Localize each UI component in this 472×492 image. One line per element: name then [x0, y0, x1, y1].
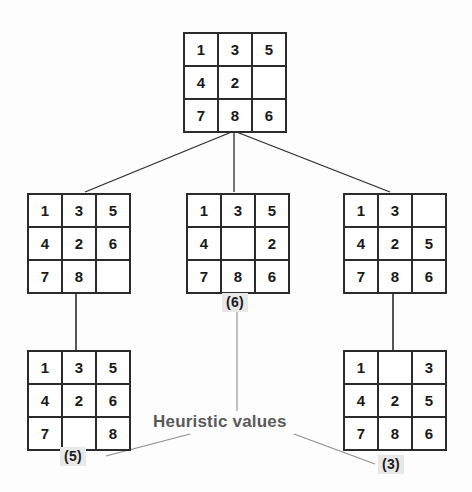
tile: 4 — [184, 66, 218, 99]
tile: 2 — [218, 66, 252, 99]
edge-root-to-right — [234, 131, 390, 192]
tile: 6 — [96, 227, 130, 260]
tile: 8 — [378, 417, 412, 450]
tile: 2 — [378, 384, 412, 417]
tile: 5 — [96, 351, 130, 384]
tile: 1 — [344, 351, 378, 384]
tile: 6 — [412, 260, 446, 293]
tile: 5 — [252, 33, 286, 66]
heuristic-values-caption: Heuristic values — [153, 412, 287, 432]
tile: 7 — [184, 99, 218, 132]
edge-root-to-left — [85, 131, 234, 192]
child-state-right: 1 3 4 2 5 7 8 6 — [343, 193, 447, 294]
tile: 6 — [255, 260, 289, 293]
child-state-middle: 1 3 5 4 2 7 8 6 — [186, 193, 290, 294]
child-state-left: 1 3 5 4 2 6 7 8 — [27, 193, 131, 294]
tile: 7 — [28, 417, 62, 450]
tile: 8 — [62, 260, 96, 293]
tile: 3 — [218, 33, 252, 66]
tile: 5 — [412, 227, 446, 260]
tile: 1 — [28, 351, 62, 384]
tile: 7 — [28, 260, 62, 293]
tile: 8 — [96, 417, 130, 450]
tile-blank — [412, 194, 446, 227]
root-state: 1 3 5 4 2 7 8 6 — [183, 32, 287, 133]
tile: 8 — [378, 260, 412, 293]
tile: 1 — [28, 194, 62, 227]
tile: 2 — [62, 227, 96, 260]
tile: 3 — [412, 351, 446, 384]
puzzle-search-tree-diagram: 1 3 5 4 2 7 8 6 1 3 5 4 2 6 7 8 1 3 5 4 … — [0, 0, 472, 492]
tile-blank — [96, 260, 130, 293]
tile: 1 — [344, 194, 378, 227]
tile: 4 — [344, 384, 378, 417]
tile: 6 — [412, 417, 446, 450]
tile: 3 — [62, 194, 96, 227]
tile-blank — [252, 66, 286, 99]
leaf-state-left: 1 3 5 4 2 6 7 8 — [27, 350, 131, 451]
leaf-state-right: 1 3 4 2 5 7 8 6 — [343, 350, 447, 451]
tile: 4 — [344, 227, 378, 260]
tile: 4 — [28, 227, 62, 260]
tile: 7 — [344, 417, 378, 450]
tile: 4 — [187, 227, 221, 260]
tile: 8 — [221, 260, 255, 293]
tile: 6 — [96, 384, 130, 417]
heuristic-label-left: (5) — [60, 447, 86, 466]
heuristic-label-middle: (6) — [222, 293, 248, 312]
tile-blank — [378, 351, 412, 384]
tile: 3 — [378, 194, 412, 227]
tile: 1 — [184, 33, 218, 66]
tile: 1 — [187, 194, 221, 227]
tile-blank — [221, 227, 255, 260]
tile: 3 — [221, 194, 255, 227]
tile: 7 — [344, 260, 378, 293]
tile: 6 — [252, 99, 286, 132]
tile: 3 — [62, 351, 96, 384]
tile: 5 — [412, 384, 446, 417]
tile: 2 — [255, 227, 289, 260]
tile: 2 — [62, 384, 96, 417]
tile: 4 — [28, 384, 62, 417]
heuristic-label-right: (3) — [378, 455, 404, 474]
tile: 5 — [255, 194, 289, 227]
tile: 5 — [96, 194, 130, 227]
tile: 8 — [218, 99, 252, 132]
tile-blank — [62, 417, 96, 450]
tile: 7 — [187, 260, 221, 293]
tile: 2 — [378, 227, 412, 260]
